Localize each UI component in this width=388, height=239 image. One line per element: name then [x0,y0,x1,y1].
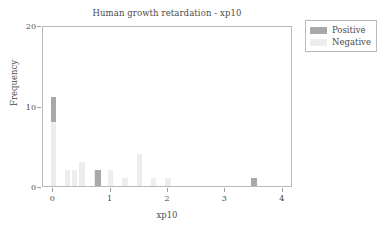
bar [251,178,256,186]
y-tick-label: 0 [0,183,36,192]
y-tick-mark [37,187,41,188]
bar-segment-negative [65,170,70,186]
bar [72,170,77,186]
legend-item: Positive [310,24,371,36]
y-axis-title: Frequency [9,43,19,123]
bar [65,170,70,186]
chart-title: Human growth retardation - xp10 [42,8,292,18]
y-tick-mark [37,26,41,27]
x-tick-mark [282,188,283,192]
bar-segment-negative [72,170,77,186]
legend-label: Negative [332,38,371,47]
x-axis-title: xp10 [42,210,292,220]
bar-segment-positive [95,170,100,186]
bar-segment-negative [79,162,84,186]
bar [151,178,156,186]
x-tick-mark [224,188,225,192]
y-tick-label: 20 [0,22,36,31]
legend-label: Positive [332,26,366,35]
x-tick-label: 3 [222,194,227,203]
x-tick-label: 2 [164,194,169,203]
bar-segment-negative [122,178,127,186]
x-tick-label: 0 [50,194,55,203]
bar-segment-positive [51,97,56,121]
x-tick-label: 1 [107,194,112,203]
x-tick-mark [110,188,111,192]
x-tick-mark [52,188,53,192]
chart-legend: PositiveNegative [305,20,377,52]
y-tick-mark [37,107,41,108]
plot-area [42,26,292,187]
bar [51,97,56,186]
legend-item: Negative [310,36,371,48]
bar-segment-negative [108,170,113,186]
legend-swatch-icon [310,39,327,46]
chart-figure: Human growth retardation - xp10 01020 Fr… [0,0,388,239]
bar [165,178,170,186]
legend-swatch-icon [310,27,327,34]
bar-segment-negative [137,154,142,186]
bar [137,154,142,186]
bar-segment-positive [251,178,256,186]
x-tick-mark [167,188,168,192]
bar [79,162,84,186]
bar [122,178,127,186]
bar [95,170,100,186]
bars-layer [43,27,291,186]
bar-segment-negative [165,178,170,186]
bar [108,170,113,186]
bar-segment-negative [51,122,56,186]
x-tick-label: 4 [279,194,284,203]
bar-segment-negative [151,178,156,186]
